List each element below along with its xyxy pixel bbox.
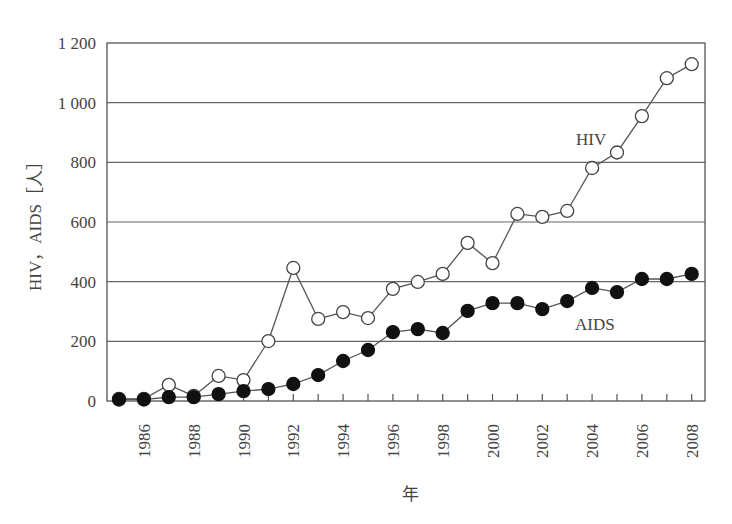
hiv-data-point bbox=[337, 306, 350, 319]
x-tick-label: 1998 bbox=[434, 424, 453, 458]
hiv-data-point bbox=[436, 267, 449, 280]
aids-data-point bbox=[362, 343, 375, 356]
y-tick-label: 400 bbox=[71, 273, 97, 292]
hiv-data-point bbox=[312, 312, 325, 325]
hiv-data-point bbox=[212, 369, 225, 382]
x-axis-tick-labels: 1986198819901992199419961998200020022004… bbox=[135, 424, 702, 459]
hiv-data-point bbox=[162, 378, 175, 391]
aids-data-point bbox=[162, 391, 175, 404]
aids-data-point bbox=[137, 393, 150, 406]
x-tick-label: 1986 bbox=[135, 424, 154, 458]
aids-data-point bbox=[611, 286, 624, 299]
aids-data-point bbox=[536, 303, 549, 316]
aids-data-point bbox=[461, 304, 474, 317]
hiv-data-point bbox=[511, 207, 524, 220]
aids-data-point bbox=[586, 281, 599, 294]
aids-data-point bbox=[685, 267, 698, 280]
aids-data-point bbox=[635, 272, 648, 285]
y-axis-title: HIV，AIDS［人］ bbox=[26, 153, 45, 291]
aids-data-point bbox=[187, 391, 200, 404]
aids-data-point bbox=[262, 383, 275, 396]
x-tick-label: 2008 bbox=[683, 424, 702, 458]
x-tick-label: 1988 bbox=[185, 424, 204, 458]
hiv-data-point bbox=[536, 210, 549, 223]
y-tick-label: 600 bbox=[71, 213, 97, 232]
aids-data-point bbox=[312, 369, 325, 382]
hiv-data-point bbox=[561, 204, 574, 217]
y-tick-label: 0 bbox=[88, 392, 97, 411]
aids-series-label: AIDS bbox=[575, 315, 615, 334]
hiv-data-point bbox=[611, 146, 624, 159]
aids-data-point bbox=[287, 377, 300, 390]
hiv-data-point bbox=[660, 72, 673, 85]
aids-data-point bbox=[436, 326, 449, 339]
aids-data-point bbox=[237, 385, 250, 398]
aids-data-point bbox=[386, 326, 399, 339]
series-group bbox=[113, 58, 699, 406]
hiv-data-point bbox=[287, 261, 300, 274]
aids-data-point bbox=[212, 388, 225, 401]
aids-data-point bbox=[511, 297, 524, 310]
aids-data-point bbox=[660, 272, 673, 285]
y-axis-tick-labels: 02004006008001 0001 200 bbox=[58, 34, 96, 411]
aids-data-point bbox=[561, 295, 574, 308]
aids-data-point bbox=[411, 323, 424, 336]
x-tick-label: 2006 bbox=[633, 424, 652, 458]
hiv-line bbox=[119, 64, 692, 399]
hiv-data-point bbox=[386, 282, 399, 295]
hiv-data-point bbox=[262, 335, 275, 348]
y-tick-label: 200 bbox=[71, 332, 97, 351]
x-tick-label: 2004 bbox=[583, 424, 602, 459]
gridlines bbox=[107, 103, 705, 342]
hiv-series-label: HIV bbox=[576, 130, 607, 149]
y-tick-label: 1 200 bbox=[58, 34, 96, 53]
x-tick-label: 1996 bbox=[384, 424, 403, 458]
hiv-data-point bbox=[362, 312, 375, 325]
y-tick-label: 1 000 bbox=[58, 94, 96, 113]
hiv-data-point bbox=[486, 257, 499, 270]
x-tick-label: 2000 bbox=[484, 424, 503, 458]
x-tick-label: 2002 bbox=[533, 424, 552, 458]
x-tick-label: 1990 bbox=[235, 424, 254, 458]
x-tick-label: 1992 bbox=[284, 424, 303, 458]
y-tick-label: 800 bbox=[71, 153, 97, 172]
hiv-data-point bbox=[461, 236, 474, 249]
aids-data-point bbox=[113, 393, 126, 406]
x-axis-ticks bbox=[144, 394, 692, 401]
aids-data-point bbox=[337, 355, 350, 368]
hiv-data-point bbox=[586, 162, 599, 175]
hiv-data-point bbox=[635, 110, 648, 123]
x-tick-label: 1994 bbox=[334, 424, 353, 459]
hiv-data-point bbox=[685, 58, 698, 71]
aids-line bbox=[119, 274, 692, 400]
aids-data-point bbox=[486, 297, 499, 310]
x-axis-title: 年 bbox=[402, 485, 419, 504]
hiv-data-point bbox=[411, 275, 424, 288]
line-chart: 02004006008001 0001 200 1986198819901992… bbox=[0, 0, 732, 524]
